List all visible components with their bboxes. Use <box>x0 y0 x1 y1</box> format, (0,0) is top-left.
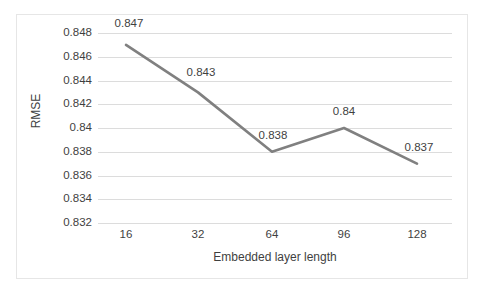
y-tick-label: 0.846 <box>34 51 92 63</box>
x-tick-label: 32 <box>168 228 228 242</box>
series-line-rmse <box>98 33 452 223</box>
x-tick-label: 128 <box>387 228 447 242</box>
x-axis-title: Embedded layer length <box>98 250 452 264</box>
y-tick-label: 0.848 <box>34 27 92 39</box>
y-tick-label: 0.834 <box>34 194 92 206</box>
data-label: 0.84 <box>333 106 355 118</box>
plot-area <box>98 33 452 223</box>
y-axis-title: RMSE <box>29 71 43 151</box>
x-axis-ticks: 16 32 64 96 128 <box>98 228 452 246</box>
data-label: 0.838 <box>259 130 288 142</box>
x-tick-label: 64 <box>242 228 302 242</box>
x-tick-label: 96 <box>314 228 374 242</box>
y-tick-label: 0.832 <box>34 217 92 229</box>
y-tick-label: 0.836 <box>34 170 92 182</box>
gridline <box>98 223 452 224</box>
x-tick-label: 16 <box>96 228 156 242</box>
chart-screenshot: 0.848 0.846 0.844 0.842 0.84 0.838 0.836… <box>0 0 484 299</box>
data-label: 0.847 <box>115 18 144 30</box>
data-label: 0.843 <box>187 67 216 79</box>
data-label: 0.837 <box>405 142 434 154</box>
